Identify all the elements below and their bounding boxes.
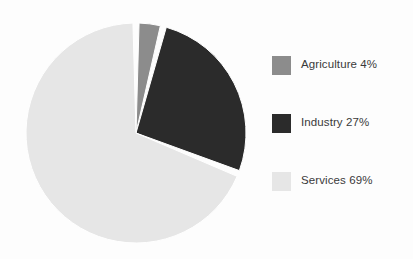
pie-chart-plot-area (0, 0, 265, 259)
chart-legend: Agriculture 4% Industry 27% Services 69% (272, 55, 413, 210)
legend-label-services: Services 69% (301, 175, 373, 187)
legend-swatch-agriculture (272, 56, 291, 75)
pie-chart-figure: Agriculture 4% Industry 27% Services 69% (0, 0, 413, 259)
pie-slice-group (26, 23, 246, 243)
legend-item-agriculture[interactable]: Agriculture 4% (272, 55, 413, 75)
legend-item-industry[interactable]: Industry 27% (272, 113, 413, 133)
legend-label-agriculture: Agriculture 4% (301, 59, 377, 71)
legend-swatch-industry (272, 114, 291, 133)
legend-item-services[interactable]: Services 69% (272, 171, 413, 191)
legend-label-industry: Industry 27% (301, 117, 369, 129)
legend-swatch-services (272, 172, 291, 191)
pie-chart-svg (0, 0, 265, 259)
